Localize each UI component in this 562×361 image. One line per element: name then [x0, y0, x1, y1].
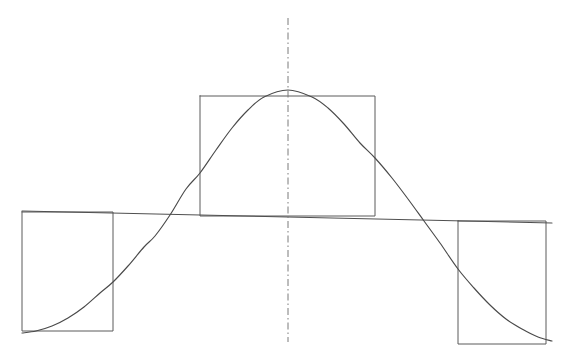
bell-curve-diagram: Hand-drawn Gaussian bell curve with step… [0, 0, 562, 361]
figure-canvas: Hand-drawn Gaussian bell curve with step… [0, 0, 562, 361]
